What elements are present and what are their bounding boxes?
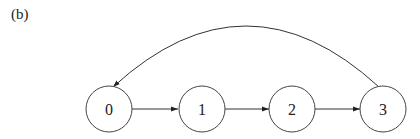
node-0-label: 0 — [105, 101, 113, 118]
node-2: 2 — [269, 86, 315, 132]
node-1: 1 — [179, 86, 225, 132]
node-3-label: 3 — [379, 101, 387, 118]
node-0: 0 — [86, 86, 132, 132]
node-3: 3 — [360, 86, 406, 132]
edge-3-0-arc — [113, 26, 379, 87]
node-2-label: 2 — [288, 101, 296, 118]
node-1-label: 1 — [198, 101, 206, 118]
graph-diagram: 0 1 2 3 — [0, 0, 420, 139]
